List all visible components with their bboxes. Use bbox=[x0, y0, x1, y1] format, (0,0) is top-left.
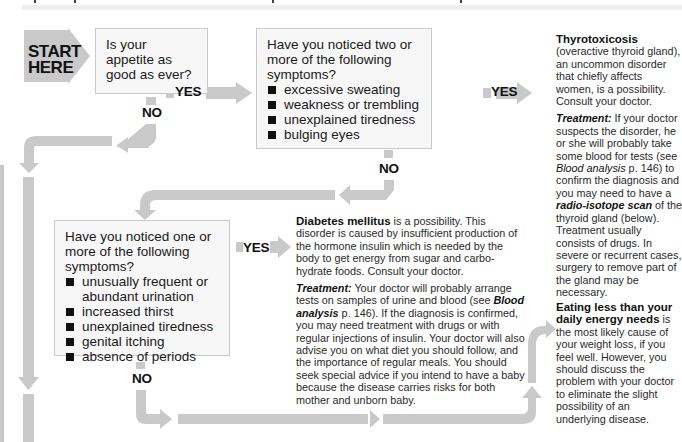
no-label: NO bbox=[132, 371, 152, 386]
symptom-item: absence of periods bbox=[65, 349, 219, 364]
vertical-flow-bar bbox=[23, 177, 34, 377]
no-label: NO bbox=[142, 105, 162, 120]
question-box-diabetes-symptoms: Have you noticed one or more of the foll… bbox=[54, 220, 230, 356]
question-text: Have you noticed one or more of the foll… bbox=[65, 229, 219, 274]
curved-arrow-down-icon bbox=[19, 136, 112, 173]
vertical-flow-bar bbox=[23, 394, 34, 442]
outcome-title: Diabetes mellitus bbox=[296, 215, 391, 227]
question-text: Is your appetite as good as ever? bbox=[106, 37, 197, 82]
outcome-diabetes: Diabetes mellitus is a possibility. This… bbox=[296, 215, 526, 406]
treatment-text: p. 146). If the diagnosis is confirmed, … bbox=[296, 307, 525, 406]
outcome-title: Eating less than your daily energy needs bbox=[556, 301, 672, 325]
treatment-text: of the thyroid gland (below). Treatment … bbox=[556, 199, 682, 298]
radio-isotope-scan-reference[interactable]: radio-isotope scan bbox=[556, 199, 652, 211]
blood-analysis-reference[interactable]: Blood analysis bbox=[556, 162, 626, 174]
symptom-item: unexplained tiredness bbox=[65, 319, 219, 334]
yes-label: YES bbox=[243, 240, 269, 255]
arrow-right-icon bbox=[206, 82, 252, 104]
symptom-item: excessive sweating bbox=[267, 82, 421, 97]
yes-connector-stub bbox=[236, 242, 243, 252]
symptom-item: bulging eyes bbox=[267, 127, 421, 142]
start-here-marker: START HERE bbox=[22, 28, 90, 84]
symptom-list: excessive sweating weakness or trembling… bbox=[267, 82, 421, 142]
outcome-intro: (overactive thyroid gland), an uncommon … bbox=[556, 45, 680, 107]
curved-arrow-right-icon bbox=[528, 320, 556, 345]
no-connector-stub bbox=[146, 97, 156, 105]
vertical-flow-bar bbox=[528, 345, 536, 383]
symptom-item: unexplained tiredness bbox=[267, 112, 421, 127]
question-text: Have you noticed two or more of the foll… bbox=[267, 37, 421, 82]
start-label-line2: HERE bbox=[28, 60, 81, 76]
elbow-arrow-icon bbox=[339, 180, 394, 205]
arrow-down-icon bbox=[18, 377, 39, 390]
elbow-arrow-right-icon bbox=[136, 390, 172, 429]
symptom-list: unusually frequent or abundant urination… bbox=[65, 274, 219, 364]
yes-label: YES bbox=[175, 84, 201, 99]
treatment-label: Treatment: bbox=[296, 282, 352, 294]
outcome-title: Thyrotoxicosis bbox=[556, 33, 638, 45]
start-label: START HERE bbox=[28, 44, 81, 76]
symptom-item: increased thirst bbox=[65, 304, 219, 319]
treatment-label: Treatment: bbox=[556, 112, 612, 124]
outcome-body: is the most likely cause of your weight … bbox=[556, 313, 674, 424]
outcome-eating-less: Eating less than your daily energy needs… bbox=[556, 301, 682, 425]
yes-label: YES bbox=[491, 84, 517, 99]
question-box-thyroid-symptoms: Have you noticed two or more of the foll… bbox=[256, 28, 432, 149]
outcome-thyrotoxicosis: Thyrotoxicosis (overactive thyroid gland… bbox=[556, 33, 682, 299]
horizontal-flow-bar bbox=[178, 414, 368, 424]
symptom-item: genital itching bbox=[65, 334, 219, 349]
arrow-right-icon bbox=[370, 410, 380, 428]
symptom-item: unusually frequent or abundant urination bbox=[65, 274, 219, 304]
no-label: NO bbox=[379, 161, 399, 176]
yes-connector-stub bbox=[483, 88, 491, 98]
symptom-item: weakness or trembling bbox=[267, 97, 421, 112]
no-connector-stub bbox=[384, 150, 393, 158]
arrow-right-icon bbox=[270, 236, 291, 258]
